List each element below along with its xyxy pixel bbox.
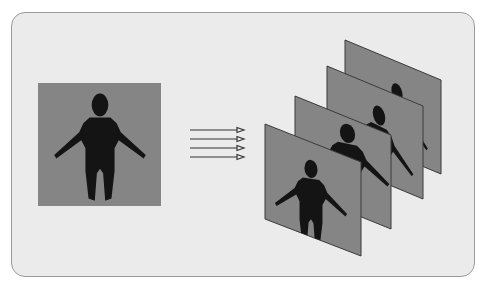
arrow-icon: [190, 137, 244, 142]
arrow-icon: [190, 155, 244, 160]
source-render: [38, 83, 161, 206]
arrow-icon: [190, 128, 244, 133]
arrows: [190, 128, 244, 160]
diagram-canvas: [0, 0, 488, 289]
arrow-icon: [190, 146, 244, 151]
